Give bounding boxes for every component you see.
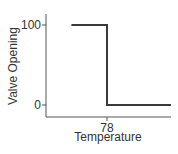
x-axis-label: Temperature bbox=[74, 130, 142, 144]
axes bbox=[46, 14, 171, 117]
y-tick-label: 100 bbox=[21, 18, 41, 32]
series-group bbox=[71, 25, 171, 105]
y-tick-label: 0 bbox=[34, 98, 41, 112]
chart: 0100 78 Temperature Valve Opening bbox=[0, 0, 178, 154]
series-line bbox=[71, 25, 171, 105]
y-ticks: 0100 bbox=[21, 18, 46, 112]
y-axis-label: Valve Opening bbox=[6, 27, 20, 105]
